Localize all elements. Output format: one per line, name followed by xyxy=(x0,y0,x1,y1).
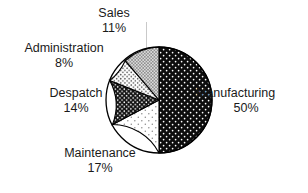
pie-label-maintenance: Maintenance 17% xyxy=(38,146,162,175)
pie-label-manufacturing: Manufacturing 50% xyxy=(196,86,308,115)
pie-label-despatch-value: 14% xyxy=(20,101,132,116)
pie-label-despatch-name: Despatch xyxy=(20,86,132,101)
pie-label-despatch: Despatch 14% xyxy=(20,86,132,115)
pie-label-maintenance-name: Maintenance xyxy=(38,146,162,161)
chart-area: Sales 11% Administration 8% Despatch 14%… xyxy=(0,0,308,193)
pie-label-manufacturing-value: 50% xyxy=(196,101,296,116)
pie-label-sales: Sales 11% xyxy=(58,6,170,35)
pie-label-sales-name: Sales xyxy=(58,6,170,21)
pie-chart-figure: Sales 11% Administration 8% Despatch 14%… xyxy=(0,0,308,193)
pie-label-manufacturing-name: Manufacturing xyxy=(196,86,308,101)
pie-label-maintenance-value: 17% xyxy=(38,161,162,176)
pie-label-sales-value: 11% xyxy=(58,21,170,36)
pie-label-administration-name: Administration xyxy=(2,41,126,56)
pie-label-administration-value: 8% xyxy=(2,56,126,71)
pie-label-administration: Administration 8% xyxy=(2,41,126,70)
